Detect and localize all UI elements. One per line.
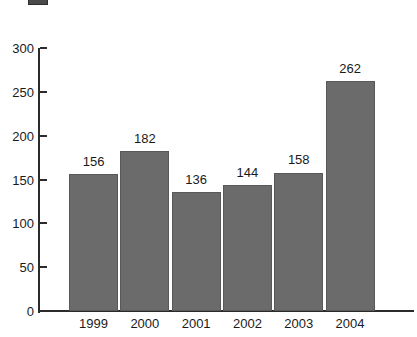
bar [326,81,375,311]
bar-value-label: 144 [223,166,272,179]
bar-value-label: 156 [69,155,118,168]
x-axis-category-label: 2004 [320,317,381,330]
bar-value-label: 182 [120,132,169,145]
bar [223,185,272,311]
y-axis-tick-label: 0 [2,305,34,318]
y-axis-tick-label: 50 [2,261,34,274]
bar [274,173,323,312]
chart-legend [0,0,417,6]
bar-value-label: 136 [172,173,221,186]
y-axis-tick-label: 250 [2,85,34,98]
plot-area [40,48,414,311]
bar-value-label: 158 [274,153,323,166]
y-axis-tick-label: 100 [2,217,34,230]
bar-value-label: 262 [326,62,375,75]
bar [172,192,221,311]
y-axis-tick-label: 300 [2,42,34,55]
bar [120,151,169,311]
legend-entry [28,0,54,6]
bar-chart: 050100150200250300 156182136144158262 19… [0,0,417,337]
y-axis-tick-label: 150 [2,173,34,186]
legend-color-swatch [28,0,48,5]
y-axis-tick-label: 200 [2,129,34,142]
bar [69,174,118,311]
